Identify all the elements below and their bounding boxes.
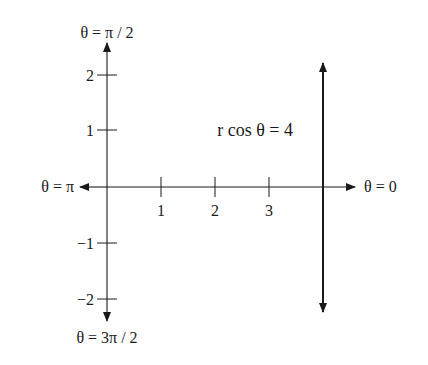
y-tick-label-neg2: −2 bbox=[77, 291, 94, 308]
x-tick-label-1: 1 bbox=[157, 202, 165, 219]
curve-equation-label: r cos θ = 4 bbox=[217, 120, 293, 140]
y-tick-label-2: 2 bbox=[86, 67, 94, 84]
vertical-axis bbox=[97, 43, 117, 321]
x-tick-label-3: 3 bbox=[265, 202, 273, 219]
polar-diagram: θ = π / 2 θ = 3π / 2 θ = π θ = 0 1 2 3 2… bbox=[0, 0, 428, 365]
label-theta-pi-over-2: θ = π / 2 bbox=[80, 24, 133, 41]
y-tick-label-neg1: −1 bbox=[77, 235, 94, 252]
label-theta-pi: θ = π bbox=[41, 178, 74, 195]
label-theta-3pi-over-2: θ = 3π / 2 bbox=[76, 329, 137, 346]
horizontal-axis bbox=[80, 177, 355, 197]
y-tick-label-1: 1 bbox=[86, 122, 94, 139]
label-theta-zero: θ = 0 bbox=[364, 178, 397, 195]
x-tick-label-2: 2 bbox=[211, 202, 219, 219]
